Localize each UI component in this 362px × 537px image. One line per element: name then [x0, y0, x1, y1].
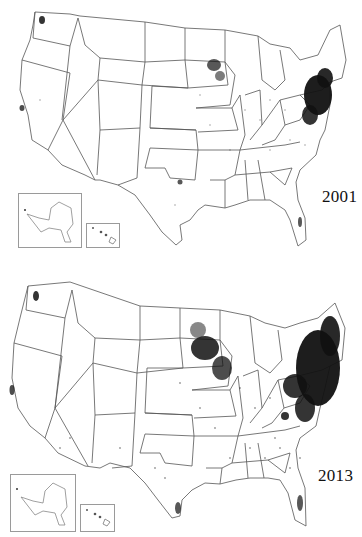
alaska-shape — [11, 475, 75, 531]
year-label-2001: 2001 — [322, 187, 357, 207]
hawaii-inset — [86, 223, 120, 248]
hawaii-inset — [80, 504, 115, 532]
hawaii-shape — [81, 505, 114, 531]
map-panel-2001: 2001 — [0, 0, 362, 268]
map-panel-2013: 2013 — [0, 268, 362, 537]
alaska-inset — [10, 474, 76, 532]
alaska-inset — [18, 193, 82, 248]
year-label-2013: 2013 — [318, 466, 353, 486]
hawaii-shape — [87, 224, 119, 247]
alaska-shape — [19, 194, 81, 247]
